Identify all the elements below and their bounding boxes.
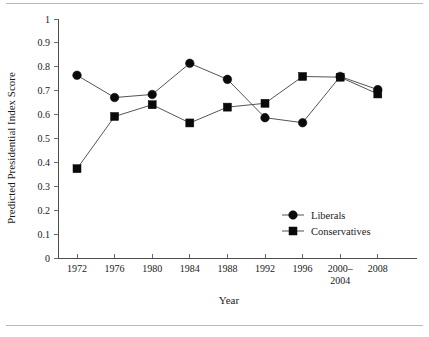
data-point-marker [186,59,195,68]
y-axis-tick-group: 00.10.20.30.40.50.60.70.80.91 [38,14,59,265]
x-axis-title-label: Year [219,294,240,306]
data-point-marker [223,75,232,84]
y-tick-label: 0.4 [38,157,51,168]
data-point-marker [186,119,194,127]
x-tick-label: 1992 [255,263,275,274]
line-chart: Predicted Presidential Index Score 00.10… [0,0,429,337]
series-layer [73,59,382,173]
y-tick-label: 0 [45,253,50,264]
data-point-marker [261,99,269,107]
y-tick-label: 1 [45,14,50,25]
data-point-marker [111,112,119,120]
data-point-marker [261,113,270,122]
y-tick-label: 0.2 [38,205,51,216]
legend-marker-conservatives [289,227,297,235]
y-axis-title-label: Predicted Presidential Index Score [5,72,17,224]
x-tick-label: 2008 [368,263,388,274]
data-point-marker [374,90,382,98]
data-point-marker [148,101,156,109]
x-tick-label-line2: 2004 [330,275,350,286]
data-point-marker [223,103,231,111]
y-tick-label: 0.8 [38,61,51,72]
data-point-marker [110,93,119,102]
data-point-marker [73,71,82,80]
x-tick-label: 1984 [180,263,200,274]
figure-container: Predicted Presidential Index Score 00.10… [0,0,429,337]
x-tick-label: 1976 [105,263,125,274]
y-tick-label: 0.9 [38,37,51,48]
y-tick-label: 0.7 [38,85,51,96]
legend-marker-liberals [289,211,298,220]
y-tick-label: 0.3 [38,181,51,192]
x-tick-label: 2000– [328,263,354,274]
chart-legend: LiberalsConservatives [282,210,371,237]
data-point-marker [148,90,157,99]
data-point-marker [299,72,307,80]
data-point-marker [73,165,81,173]
legend-label-conservatives: Conservatives [311,226,371,237]
y-tick-label: 0.6 [38,109,51,120]
x-tick-label: 1996 [293,263,313,274]
y-axis-title: Predicted Presidential Index Score [5,72,17,224]
data-point-marker [298,118,307,127]
y-tick-label: 0.1 [38,229,51,240]
x-tick-label: 1972 [67,263,87,274]
series-line-conservatives [77,76,378,168]
x-axis-tick-labels: 19721976198019841988199219962000–2004200… [67,263,388,286]
data-point-marker [336,73,344,81]
x-axis-tick-group [77,254,378,259]
x-tick-label: 1988 [217,263,237,274]
y-tick-label: 0.5 [38,133,51,144]
legend-label-liberals: Liberals [311,210,345,221]
x-tick-label: 1980 [142,263,162,274]
